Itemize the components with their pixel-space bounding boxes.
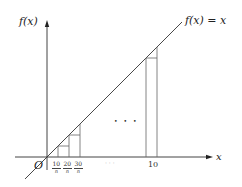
large-bars (146, 47, 157, 157)
x-tick-1-denominator: n (52, 169, 61, 175)
x-end-tick: 10 (148, 161, 158, 169)
y-axis-label: f(x) (19, 16, 38, 27)
small-bars (58, 124, 80, 157)
x-tick-2: 20 n (63, 161, 72, 174)
x-tick-ellipsis: · · · (105, 160, 115, 166)
middle-ellipsis: • • • (114, 118, 138, 124)
x-tick-2-denominator: n (63, 169, 72, 175)
origin-label: O (34, 160, 43, 171)
x-tick-3-denominator: n (74, 169, 83, 175)
x-axis-label: x (216, 152, 222, 162)
function-line (25, 22, 182, 179)
function-label: f(x) = x (185, 15, 226, 26)
x-axis-arrow-icon (206, 155, 213, 159)
x-tick-1: 10 n (52, 161, 61, 174)
x-tick-3: 30 n (74, 161, 83, 174)
y-axis-arrow-icon (45, 20, 49, 27)
